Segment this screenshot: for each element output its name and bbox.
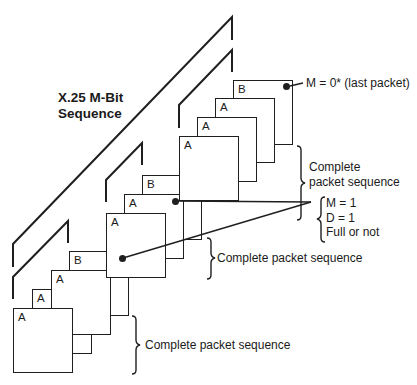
brace-label-line-1: Complete [309,160,400,175]
d-bit-value: D = 1 [326,211,379,226]
full-or-not: Full or not [326,225,379,240]
brace-label-line-2: packet sequence [309,175,400,190]
diagram-title: X.25 M-Bit Sequence [58,90,123,122]
brace-m-d-annotation [317,197,325,242]
middle-group-brace-label: Complete packet sequence [217,251,362,266]
m-bit-sequence-diagram: A A A B A A B A A A B [data-name="packet… [0,0,417,385]
brace-bottom-group [132,316,140,374]
leader-bottom-dot [123,202,311,258]
title-line-2: Sequence [58,106,123,122]
brace-middle-group [207,238,215,279]
m-bit-value: M = 1 [326,196,379,211]
last-packet-note: M = 0* (last packet) [306,76,410,91]
leader-lines [0,0,417,385]
title-line-1: X.25 M-Bit [58,90,123,106]
bottom-group-brace-label: Complete packet sequence [145,338,290,353]
brace-top-group [297,146,305,220]
top-group-brace-label: Complete packet sequence [309,160,400,189]
m-d-annotation: M = 1 D = 1 Full or not [326,196,379,240]
leader-middle-dot [176,201,311,202]
leader-last-packet [290,83,303,86]
